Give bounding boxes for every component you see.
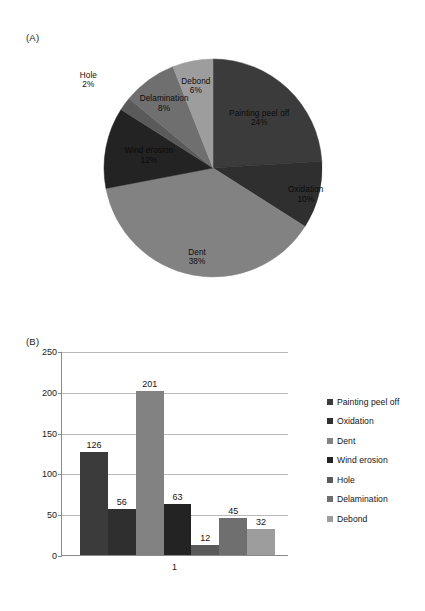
- x-axis-tick-label: 1: [61, 562, 288, 572]
- pie-slice-name: Oxidation: [288, 186, 324, 196]
- bar-value-label: 201: [142, 379, 157, 389]
- pie-chart: [103, 58, 323, 278]
- y-axis-tickmark: [58, 434, 62, 435]
- bar-slot: 56: [108, 351, 136, 555]
- bar-value-label: 32: [256, 517, 266, 527]
- legend-item[interactable]: Debond: [327, 509, 425, 529]
- bar-group: 1265620163124532: [80, 351, 275, 555]
- pie-slice-percent: 24%: [229, 119, 289, 129]
- legend-item-label: Debond: [337, 514, 367, 524]
- bar-slot: 126: [80, 351, 108, 555]
- panel-a-pie-figure: (A) Painting peel off24%Oxidation10%Dent…: [0, 0, 425, 320]
- pie-slice-label: Dent38%: [188, 248, 206, 267]
- bar-value-label: 126: [86, 440, 101, 450]
- pie-slice-label: Delamination8%: [140, 95, 189, 114]
- bar: 12: [191, 545, 219, 555]
- pie-slice-label: Painting peel off24%: [229, 109, 289, 128]
- y-axis-tick-label: 150: [42, 429, 57, 439]
- pie-slice-percent: 12%: [124, 156, 173, 166]
- panel-a-label: (A): [26, 32, 39, 43]
- pie-slice-name: Wind erosion: [124, 146, 173, 156]
- legend-item-label: Oxidation: [337, 416, 374, 426]
- pie-slice-name: Painting peel off: [229, 109, 289, 119]
- bar: 45: [219, 518, 247, 555]
- legend-swatch-icon: [327, 438, 333, 444]
- pie-slice-percent: 38%: [188, 258, 206, 268]
- bar: 56: [108, 509, 136, 555]
- legend-item-label: Painting peel off: [337, 397, 399, 407]
- bar-slot: 32: [247, 351, 275, 555]
- bar-value-label: 45: [228, 506, 238, 516]
- pie-slice-label: Oxidation10%: [288, 186, 324, 205]
- bar: 126: [80, 452, 108, 555]
- y-axis-tick-label: 50: [47, 510, 57, 520]
- y-axis-tickmark: [58, 556, 62, 557]
- y-axis-tickmark: [58, 474, 62, 475]
- pie-slice-label: Debond6%: [181, 77, 210, 96]
- bar: 32: [247, 529, 275, 555]
- legend-swatch-icon: [327, 477, 333, 483]
- pie-slice-label: Hole2%: [80, 71, 97, 90]
- legend-item-label: Wind erosion: [337, 455, 388, 465]
- bar-slot: 63: [164, 351, 192, 555]
- bar-slot: 201: [136, 351, 164, 555]
- bar-plot-area: 250200150100500 1265620163124532: [61, 352, 288, 556]
- pie-slice-percent: 6%: [181, 87, 210, 97]
- legend-item[interactable]: Oxidation: [327, 412, 425, 432]
- legend-item[interactable]: Painting peel off: [327, 392, 425, 412]
- legend-swatch-icon: [327, 516, 333, 522]
- bar-value-label: 63: [172, 492, 182, 502]
- legend-swatch-icon: [327, 399, 333, 405]
- pie-slice-label: Wind erosion12%: [124, 146, 173, 165]
- legend-item[interactable]: Dent: [327, 431, 425, 451]
- legend-item-label: Dent: [337, 436, 355, 446]
- legend-swatch-icon: [327, 418, 333, 424]
- pie-slice-percent: 10%: [288, 195, 324, 205]
- pie-slice-group: [104, 59, 322, 277]
- panel-b-bar-figure: (B) 250200150100500 1265620163124532 1 P…: [0, 320, 425, 611]
- legend-item-label: Delamination: [337, 494, 388, 504]
- y-axis-tickmark: [58, 393, 62, 394]
- pie-slice-percent: 2%: [80, 81, 97, 91]
- legend-swatch-icon: [327, 457, 333, 463]
- y-axis-tick-label: 250: [42, 347, 57, 357]
- pie-chart-svg: [103, 58, 323, 278]
- bar: 63: [164, 504, 192, 555]
- legend-item[interactable]: Delamination: [327, 490, 425, 510]
- bar-chart-legend: Painting peel offOxidationDentWind erosi…: [327, 392, 425, 529]
- bar-slot: 12: [191, 351, 219, 555]
- legend-item[interactable]: Hole: [327, 470, 425, 490]
- y-axis-tick-label: 100: [42, 469, 57, 479]
- y-axis-tickmark: [58, 352, 62, 353]
- bar: 201: [136, 391, 164, 555]
- legend-item[interactable]: Wind erosion: [327, 451, 425, 471]
- panel-b-label: (B): [26, 336, 39, 347]
- pie-slice-name: Dent: [188, 248, 206, 258]
- y-axis-tick-label: 0: [52, 551, 57, 561]
- legend-swatch-icon: [327, 496, 333, 502]
- pie-slice-name: Debond: [181, 77, 210, 87]
- bar-slot: 45: [219, 351, 247, 555]
- pie-slice-name: Hole: [80, 71, 97, 81]
- legend-item-label: Hole: [337, 475, 355, 485]
- y-axis-tick-label: 200: [42, 388, 57, 398]
- bar-value-label: 12: [200, 533, 210, 543]
- pie-slice-percent: 8%: [140, 104, 189, 114]
- bar-value-label: 56: [117, 497, 127, 507]
- y-axis-tickmark: [58, 515, 62, 516]
